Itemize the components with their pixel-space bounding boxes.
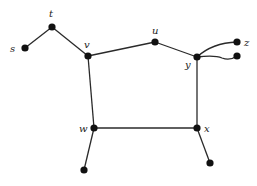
node-v (84, 52, 91, 59)
node-x2 (206, 159, 213, 166)
label-v: v (84, 39, 90, 50)
edge-w-w2 (84, 128, 94, 170)
nodes (21, 23, 240, 173)
label-w: w (79, 123, 88, 134)
edge-u-y (155, 42, 197, 57)
edge-y-z (197, 42, 237, 57)
node-w2 (80, 166, 87, 173)
label-y: y (184, 59, 191, 70)
node-z (233, 38, 240, 45)
label-z: z (243, 37, 250, 48)
label-x: x (204, 123, 210, 134)
node-t (48, 23, 55, 30)
edge-s-t (25, 27, 52, 48)
node-y2 (233, 52, 240, 59)
node-s (21, 44, 28, 51)
label-s: s (10, 43, 15, 54)
graph-diagram: s t v u y z w x (0, 0, 257, 186)
label-t: t (49, 8, 54, 19)
node-x (193, 124, 200, 131)
node-y (193, 53, 200, 60)
edge-v-u (88, 42, 155, 56)
edges (25, 27, 237, 170)
labels: s t v u y z w x (10, 8, 250, 134)
node-w (90, 124, 97, 131)
label-u: u (152, 25, 158, 36)
edge-v-w (88, 56, 94, 128)
node-u (151, 38, 158, 45)
edge-y-y2 (197, 56, 237, 59)
edge-t-v (52, 27, 88, 56)
